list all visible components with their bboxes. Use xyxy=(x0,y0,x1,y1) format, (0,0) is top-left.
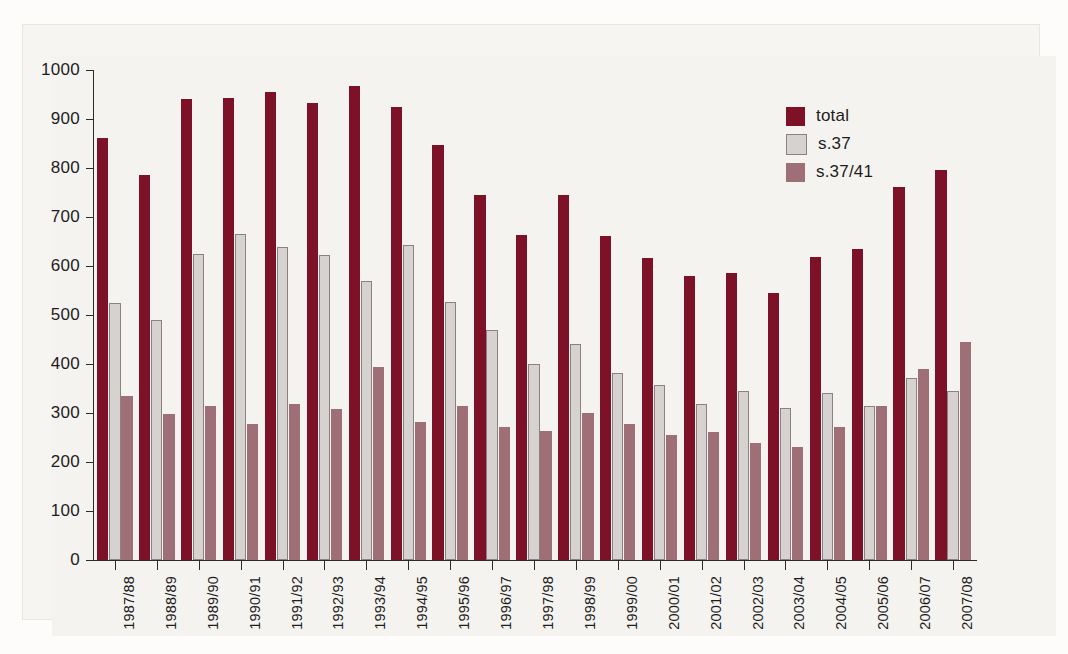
y-axis-tick-label: 800 xyxy=(6,158,80,178)
bar-s-37-41 xyxy=(540,431,551,560)
bar-s-37 xyxy=(235,234,246,560)
bar-group xyxy=(558,70,593,560)
bar-group xyxy=(474,70,509,560)
x-axis-tick-label: 1987/88 xyxy=(121,576,137,630)
bar-s-37 xyxy=(486,330,497,560)
chart-legend: totals.37s.37/41 xyxy=(786,102,956,186)
legend-swatch-icon xyxy=(786,163,805,182)
bar-s-37 xyxy=(654,385,665,560)
bar-group xyxy=(600,70,635,560)
bar-s-37-41 xyxy=(247,424,258,560)
bar-s-37 xyxy=(612,373,623,560)
chart-page: 01002003004005006007008009001000 1987/88… xyxy=(0,0,1068,654)
x-axis-tick xyxy=(283,561,284,570)
bar-s-37 xyxy=(319,255,330,560)
bar-total xyxy=(935,170,946,560)
y-axis-tick-label: 700 xyxy=(6,207,80,227)
bar-s-37 xyxy=(361,281,372,560)
bar-total xyxy=(265,92,276,560)
bar-group xyxy=(391,70,426,560)
bar-total xyxy=(391,107,402,560)
bar-s-37-41 xyxy=(624,424,635,560)
x-axis-tick xyxy=(366,561,367,570)
bar-total xyxy=(768,293,779,560)
bar-s-37-41 xyxy=(499,427,510,560)
x-axis-tick-label: 1996/97 xyxy=(498,576,514,630)
x-axis-tick xyxy=(953,561,954,570)
legend-item: total xyxy=(786,102,956,130)
bar-total xyxy=(600,236,611,560)
y-axis-tick-label: 0 xyxy=(6,550,80,570)
bar-s-37-41 xyxy=(331,409,342,560)
x-axis-tick xyxy=(660,561,661,570)
x-axis-tick xyxy=(702,561,703,570)
bar-s-37-41 xyxy=(121,396,132,560)
bar-s-37 xyxy=(151,320,162,560)
legend-item: s.37/41 xyxy=(786,158,956,186)
y-axis-tick-label: 200 xyxy=(6,452,80,472)
x-axis-tick xyxy=(157,561,158,570)
legend-swatch-icon xyxy=(786,107,805,126)
x-axis-tick-label: 1990/91 xyxy=(247,576,263,630)
bar-s-37 xyxy=(277,247,288,560)
bar-s-37-41 xyxy=(750,443,761,560)
bar-total xyxy=(642,258,653,560)
bar-s-37-41 xyxy=(960,342,971,560)
bar-total xyxy=(432,145,443,560)
bar-s-37-41 xyxy=(876,406,887,560)
x-axis-tick-label: 1997/98 xyxy=(540,576,556,630)
y-axis-tick-label: 900 xyxy=(6,109,80,129)
x-axis-tick-label: 1999/00 xyxy=(624,576,640,630)
bar-s-37-41 xyxy=(163,414,174,560)
bar-s-37-41 xyxy=(708,432,719,560)
bar-total xyxy=(726,273,737,560)
x-axis-tick xyxy=(827,561,828,570)
bar-s-37 xyxy=(822,393,833,560)
bar-total xyxy=(684,276,695,560)
x-axis-tick xyxy=(911,561,912,570)
bar-total xyxy=(181,99,192,560)
x-axis-tick-label: 1993/94 xyxy=(372,576,388,630)
x-axis-tick xyxy=(492,561,493,570)
x-axis-tick-label: 2002/03 xyxy=(750,576,766,630)
bar-s-37 xyxy=(445,302,456,560)
x-axis-tick xyxy=(869,561,870,570)
bar-group xyxy=(97,70,132,560)
x-axis-tick-label: 2005/06 xyxy=(875,576,891,630)
bar-s-37-41 xyxy=(834,427,845,560)
bar-s-37 xyxy=(738,391,749,560)
bar-group xyxy=(642,70,677,560)
x-axis-tick-label: 1994/95 xyxy=(414,576,430,630)
bar-s-37-41 xyxy=(918,369,929,560)
bar-total xyxy=(558,195,569,560)
bar-s-37 xyxy=(570,344,581,560)
bar-s-37-41 xyxy=(666,435,677,560)
x-axis-tick-label: 2004/05 xyxy=(833,576,849,630)
bar-total xyxy=(223,98,234,560)
bar-s-37 xyxy=(864,406,875,560)
x-axis-tick-label: 1992/93 xyxy=(330,576,346,630)
x-axis-tick xyxy=(324,561,325,570)
bar-total xyxy=(474,195,485,560)
x-axis-tick-label: 2006/07 xyxy=(917,576,933,630)
legend-item-label: s.37 xyxy=(818,134,851,154)
legend-item: s.37 xyxy=(786,130,956,158)
x-axis-tick-label: 1995/96 xyxy=(456,576,472,630)
bar-s-37 xyxy=(947,391,958,560)
x-axis-tick xyxy=(241,561,242,570)
bar-s-37-41 xyxy=(373,367,384,560)
x-axis-tick-label: 1989/90 xyxy=(205,576,221,630)
bar-total xyxy=(810,257,821,560)
bar-s-37 xyxy=(528,364,539,560)
bar-s-37-41 xyxy=(582,413,593,560)
y-axis-tick-label: 400 xyxy=(6,354,80,374)
x-axis-tick xyxy=(744,561,745,570)
bar-group xyxy=(349,70,384,560)
bar-group xyxy=(726,70,761,560)
x-axis-tick-label: 1991/92 xyxy=(289,576,305,630)
x-axis-tick-label: 1988/89 xyxy=(163,576,179,630)
y-axis-tick-label: 1000 xyxy=(6,60,80,80)
bar-group xyxy=(516,70,551,560)
bar-group xyxy=(223,70,258,560)
bar-total xyxy=(852,249,863,560)
